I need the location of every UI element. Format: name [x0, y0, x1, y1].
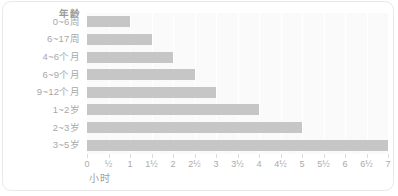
chart-card: 年龄 0~6周6~17周4~6个月6~9个月9~12个月1~2岁2~3岁3~5岁…	[2, 1, 394, 191]
bar	[87, 140, 388, 151]
x-axis-label: 6½	[360, 159, 373, 169]
x-axis-tick	[367, 154, 368, 158]
x-axis-tick	[195, 154, 196, 158]
bar	[87, 122, 302, 133]
x-axis-tick	[345, 154, 346, 158]
x-axis-label: 3½	[231, 159, 244, 169]
x-axis-tick	[238, 154, 239, 158]
x-axis-tick	[87, 154, 88, 158]
gridline	[345, 13, 346, 154]
x-axis-tick	[216, 154, 217, 158]
horizontal-bar-chart: 年龄 0~6周6~17周4~6个月6~9个月9~12个月1~2岁2~3岁3~5岁…	[3, 2, 393, 190]
y-axis-label: 2~3岁	[53, 121, 80, 135]
x-axis-tick	[388, 154, 389, 158]
x-axis-label: ½	[105, 159, 113, 169]
x-axis-label: 7	[385, 159, 390, 169]
x-axis-label: 6	[342, 159, 347, 169]
x-axis-label: 0	[84, 159, 89, 169]
y-axis: 年龄 0~6周6~17周4~6个月6~9个月9~12个月1~2岁2~3岁3~5岁	[3, 5, 85, 157]
x-axis: 0½11½22½33½44½55½66½7	[87, 154, 388, 176]
x-axis-title: 小时	[89, 170, 110, 185]
x-axis-tick	[259, 154, 260, 158]
y-axis-label: 0~6周	[53, 15, 80, 29]
plot-area	[87, 13, 388, 154]
x-axis-tick	[130, 154, 131, 158]
x-axis-label: 2	[170, 159, 175, 169]
bar	[87, 16, 130, 27]
x-axis-label: 1	[127, 159, 132, 169]
x-axis-label: 1½	[145, 159, 158, 169]
bar	[87, 104, 259, 115]
x-axis-label: 3	[213, 159, 218, 169]
x-axis-label: 5	[299, 159, 304, 169]
x-axis-tick	[152, 154, 153, 158]
x-axis-label: 2½	[188, 159, 201, 169]
gridline	[367, 13, 368, 154]
x-axis-label: 5½	[317, 159, 330, 169]
x-axis-tick	[324, 154, 325, 158]
y-axis-label: 3~5岁	[53, 138, 80, 152]
gridline	[324, 13, 325, 154]
bar	[87, 69, 195, 80]
x-axis-label: 4½	[274, 159, 287, 169]
x-axis-tick	[173, 154, 174, 158]
y-axis-label: 1~2岁	[53, 103, 80, 117]
y-axis-label: 9~12个月	[37, 85, 80, 99]
y-axis-label: 4~6个月	[42, 50, 80, 64]
x-axis-tick	[109, 154, 110, 158]
x-axis-tick	[302, 154, 303, 158]
x-axis-label: 4	[256, 159, 261, 169]
bar	[87, 52, 173, 63]
y-axis-label: 6~9个月	[42, 68, 80, 82]
y-axis-label: 6~17周	[47, 32, 80, 46]
bar	[87, 34, 152, 45]
bar	[87, 87, 216, 98]
x-axis-tick	[281, 154, 282, 158]
gridline	[388, 13, 389, 154]
gridline	[302, 13, 303, 154]
